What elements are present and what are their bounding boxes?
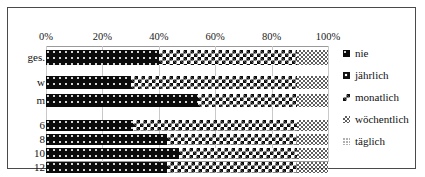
x-tick-label: 0% bbox=[39, 29, 53, 45]
filled-square-swatch-icon bbox=[343, 50, 350, 57]
x-axis-tick-labels: 0%20%40%60%80%100% bbox=[39, 29, 329, 45]
bar-row: w bbox=[46, 76, 328, 89]
plot-top-border bbox=[46, 46, 328, 47]
bar-segment-woechentlich bbox=[297, 50, 328, 65]
bar-segment-woechentlich bbox=[297, 134, 328, 145]
legend-item-taeglich[interactable]: täglich bbox=[343, 136, 425, 147]
bar-segment-monatlich bbox=[198, 94, 297, 107]
fine-checker-square-swatch-icon bbox=[343, 116, 350, 123]
y-axis-category-label: 8 bbox=[5, 134, 45, 145]
chart-frame: 0%20%40%60%80%100% ges.wm681012 niejährl… bbox=[7, 7, 416, 169]
bar-segment-nie bbox=[46, 76, 131, 89]
legend-label: wöchentlich bbox=[355, 114, 409, 125]
checker-square-swatch-icon bbox=[343, 94, 350, 101]
bar-segment-monatlich bbox=[167, 134, 297, 145]
gridline bbox=[328, 46, 329, 162]
dotted-square-swatch-icon bbox=[343, 72, 350, 79]
x-tick-label: 100% bbox=[316, 29, 341, 45]
legend-item-monatlich[interactable]: monatlich bbox=[343, 92, 425, 103]
legend-label: nie bbox=[355, 48, 368, 59]
legend-label: täglich bbox=[355, 136, 385, 147]
legend-label: jährlich bbox=[355, 70, 389, 81]
x-tick-label: 60% bbox=[206, 29, 225, 45]
bar-segment-nie bbox=[46, 50, 159, 65]
bar-segment-woechentlich bbox=[297, 148, 328, 159]
y-axis-category-label: 12 bbox=[5, 162, 45, 173]
bar-row: 8 bbox=[46, 134, 328, 145]
x-tick-label: 80% bbox=[262, 29, 281, 45]
bar-segment-nie bbox=[46, 134, 167, 145]
y-axis-category-label: m bbox=[5, 95, 45, 106]
bar-segment-nie bbox=[46, 120, 133, 131]
y-axis-category-label: w bbox=[5, 77, 45, 88]
y-axis-category-label: ges. bbox=[5, 52, 45, 63]
y-axis-category-label: 10 bbox=[5, 148, 45, 159]
legend-item-woechentlich[interactable]: wöchentlich bbox=[343, 114, 425, 125]
bar-row: 6 bbox=[46, 120, 328, 131]
plot-area: 0%20%40%60%80%100% ges.wm681012 bbox=[39, 29, 329, 163]
bar-row: 10 bbox=[46, 148, 328, 159]
legend-item-jaehrlich[interactable]: jährlich bbox=[343, 70, 425, 81]
bar-segment-woechentlich bbox=[297, 120, 328, 131]
bar-row: m bbox=[46, 94, 328, 107]
x-tick-label: 20% bbox=[93, 29, 112, 45]
bar-row: 12 bbox=[46, 162, 328, 173]
y-axis-category-label: 6 bbox=[5, 120, 45, 131]
x-tick-label: 40% bbox=[149, 29, 168, 45]
plot-grid-region: ges.wm681012 bbox=[46, 46, 328, 162]
bar-segment-nie bbox=[46, 162, 167, 173]
bar-segment-monatlich bbox=[133, 120, 297, 131]
bar-segment-woechentlich bbox=[297, 94, 328, 107]
legend-item-nie[interactable]: nie bbox=[343, 48, 425, 59]
legend-label: monatlich bbox=[355, 92, 399, 103]
bar-segment-monatlich bbox=[167, 162, 297, 173]
bar-segment-nie bbox=[46, 94, 198, 107]
chart-legend: niejährlichmonatlichwöchentlichtäglich bbox=[343, 48, 425, 158]
bar-segment-woechentlich bbox=[297, 76, 328, 89]
bar-segment-monatlich bbox=[131, 76, 297, 89]
bar-segment-woechentlich bbox=[297, 162, 328, 173]
bar-segment-monatlich bbox=[159, 50, 297, 65]
bar-row: ges. bbox=[46, 50, 328, 65]
bar-segment-nie bbox=[46, 148, 179, 159]
light-dot-square-swatch-icon bbox=[343, 138, 350, 145]
bar-segment-monatlich bbox=[179, 148, 297, 159]
